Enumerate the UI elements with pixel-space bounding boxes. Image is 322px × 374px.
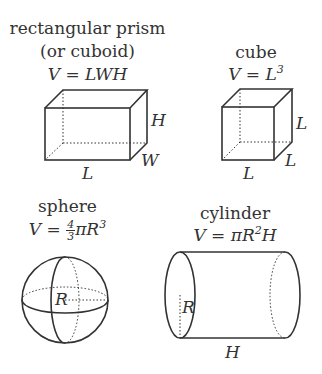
cylinder-formula: V = πR2H [170, 224, 300, 245]
prism-width-label: W [141, 150, 158, 170]
cube-length-label: L [243, 163, 254, 183]
sphere-title: sphere [0, 196, 135, 216]
fraction-denominator: 3 [66, 231, 75, 242]
cube-shape [222, 89, 292, 160]
prism-shape [45, 90, 147, 160]
cylinder-shape [165, 252, 300, 338]
prism-formula: V = LWH [0, 64, 175, 84]
sphere-formula-left: V = [29, 219, 61, 239]
cylinder-height-label: H [225, 342, 240, 362]
prism-subtitle: (or cuboid) [0, 41, 175, 61]
sphere-formula: V = 43πR3 [0, 218, 135, 242]
cube-formula: V = L3 [200, 63, 312, 84]
prism-title: rectangular prism [0, 18, 175, 38]
cube-formula-exp: 3 [277, 63, 284, 76]
cylinder-formula-tail: H [262, 225, 277, 245]
sphere-formula-exp: 3 [99, 218, 106, 231]
cylinder-formula-exp: 2 [255, 224, 262, 237]
cube-formula-base: V = L [228, 64, 277, 84]
sphere-formula-right: πR [75, 219, 99, 239]
sphere-radius-label: R [55, 289, 68, 309]
cylinder-radius-label: R [182, 297, 195, 317]
prism-length-label: L [82, 163, 93, 183]
cylinder-title: cylinder [170, 203, 300, 223]
cylinder-formula-base: V = πR [193, 225, 254, 245]
prism-height-label: H [151, 110, 166, 130]
sphere-fraction: 43 [66, 219, 75, 242]
cube-title: cube [200, 42, 312, 62]
fraction-numerator: 4 [66, 219, 75, 231]
cube-depth-label: L [285, 150, 296, 170]
cube-height-label: L [296, 113, 307, 133]
